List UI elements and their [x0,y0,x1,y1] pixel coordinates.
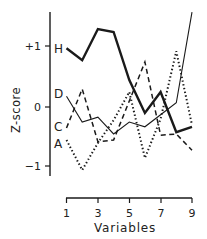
y-axis-label: Z-score [9,87,23,133]
x-tick-label-7: 7 [158,207,165,220]
z-score-line-chart: +1 0 −1 Z-score 1 3 5 7 9 Variables H D … [0,0,207,239]
series-line-a [67,51,193,170]
series-line-d [67,12,193,134]
y-tick-label-0: 0 [34,101,41,114]
series-line-c [67,62,193,150]
x-tick-label-1: 1 [63,207,70,220]
x-axis-label: Variables [94,221,156,235]
series-label-d: D [54,87,63,101]
y-tick-label-minus1: −1 [25,160,41,173]
series-line-h [67,29,193,132]
y-tick-label-plus1: +1 [25,40,41,53]
x-tick-label-9: 9 [189,207,196,220]
x-tick-label-5: 5 [126,207,133,220]
series-label-h: H [54,42,63,56]
series-label-a: A [54,137,63,151]
x-tick-label-3: 3 [95,207,102,220]
series-label-c: C [54,120,62,134]
